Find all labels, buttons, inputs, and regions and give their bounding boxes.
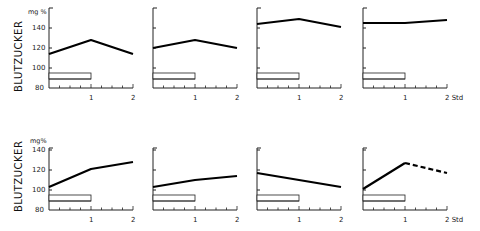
- data-line: [49, 40, 133, 54]
- panel-3: 12: [257, 8, 343, 102]
- y-unit-top: mg %: [28, 8, 47, 16]
- data-line: [153, 176, 237, 187]
- infusion-bar: [49, 195, 91, 201]
- ytick-80-bottom: 80: [35, 206, 44, 214]
- data-line: [363, 20, 447, 23]
- data-line: [49, 162, 133, 187]
- xtick-2: 2 Std: [445, 216, 463, 224]
- infusion-bar: [49, 73, 91, 79]
- xtick-2: 2: [131, 216, 135, 224]
- xtick-2: 2: [131, 94, 135, 102]
- data-line: [257, 19, 341, 27]
- panel-1: 12: [49, 8, 135, 102]
- blood-sugar-small-multiples: BLUTZUCKER BLUTZUCKER mg % mg% 160 140 1…: [0, 0, 480, 231]
- infusion-bar: [257, 195, 299, 201]
- xtick-2: 2: [339, 94, 343, 102]
- infusion-bar: [363, 195, 405, 201]
- y-axis-title-top: BLUTZUCKER: [13, 21, 24, 92]
- xtick-1: 1: [193, 94, 197, 102]
- y-axis-title-bottom: BLUTZUCKER: [13, 141, 24, 212]
- data-line-dashed: [405, 163, 447, 173]
- xtick-1: 1: [193, 216, 197, 224]
- xtick-1: 1: [297, 94, 301, 102]
- infusion-bar: [153, 73, 195, 79]
- panel-5: 12: [49, 148, 135, 224]
- infusion-bar: [257, 73, 299, 79]
- data-line: [257, 173, 341, 187]
- ytick-100-top: 100: [32, 64, 45, 72]
- data-line: [153, 40, 237, 48]
- xtick-1: 1: [89, 216, 93, 224]
- panel-4: 12 Std: [363, 8, 463, 102]
- infusion-bar: [363, 73, 405, 79]
- y-unit-bottom: mg%: [30, 137, 47, 145]
- xtick-1: 1: [403, 94, 407, 102]
- xtick-2: 2: [235, 94, 239, 102]
- xtick-2: 2: [339, 216, 343, 224]
- ytick-140-bottom: 140: [32, 146, 45, 154]
- panel-6: 12: [153, 148, 239, 224]
- infusion-bar: [153, 195, 195, 201]
- xtick-1: 1: [403, 216, 407, 224]
- xtick-1: 1: [89, 94, 93, 102]
- ytick-120-top: 120: [32, 44, 45, 52]
- ytick-80-top: 80: [35, 84, 44, 92]
- data-line-solid: [363, 163, 405, 189]
- panel-2: 12: [153, 8, 239, 102]
- ytick-140-top: 140: [32, 24, 45, 32]
- xtick-2: 2 Std: [445, 94, 463, 102]
- xtick-1: 1: [297, 216, 301, 224]
- panel-8: 12 Std: [363, 148, 463, 224]
- xtick-2: 2: [235, 216, 239, 224]
- ytick-100-bottom: 100: [32, 186, 45, 194]
- ytick-120-bottom: 120: [32, 166, 45, 174]
- panel-7: 12: [257, 148, 343, 224]
